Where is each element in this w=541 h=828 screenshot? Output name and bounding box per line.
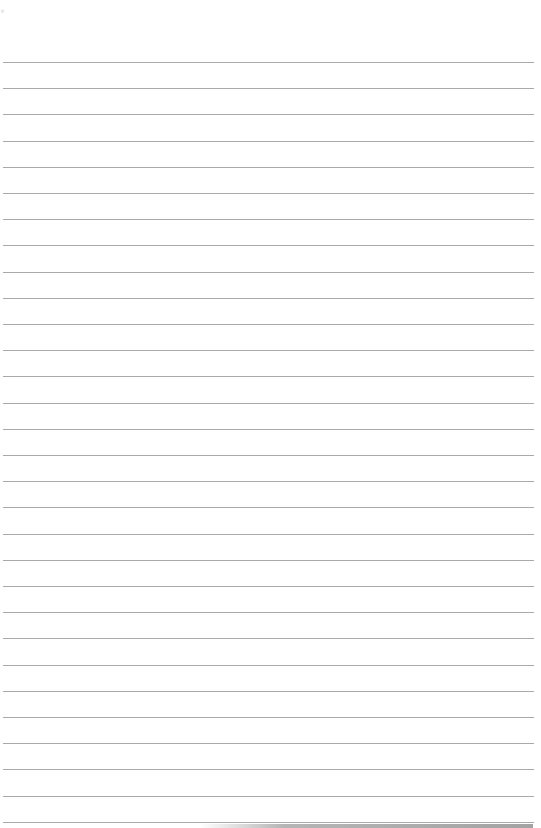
ruled-line xyxy=(3,717,534,718)
ruled-line xyxy=(3,350,534,351)
ruled-line xyxy=(3,743,534,744)
ruled-line xyxy=(3,586,534,587)
ruled-line xyxy=(3,691,534,692)
ruled-line xyxy=(3,560,534,561)
ruled-line xyxy=(3,638,534,639)
ruled-line xyxy=(3,455,534,456)
ruled-line xyxy=(3,62,534,63)
ruled-line xyxy=(3,403,534,404)
ruled-line xyxy=(3,376,534,377)
scan-shadow xyxy=(200,824,533,828)
ruled-line xyxy=(3,324,534,325)
ruled-line xyxy=(3,245,534,246)
ruled-line xyxy=(3,796,534,797)
ruled-line xyxy=(3,272,534,273)
ruled-line xyxy=(3,612,534,613)
ruled-line xyxy=(3,114,534,115)
ruled-line xyxy=(3,298,534,299)
ruled-line xyxy=(3,141,534,142)
ruled-line xyxy=(3,193,534,194)
ruled-line xyxy=(3,219,534,220)
ruled-line xyxy=(3,481,534,482)
ruled-line xyxy=(3,167,534,168)
ruled-line xyxy=(3,429,534,430)
ruled-line xyxy=(3,507,534,508)
ruled-line xyxy=(3,88,534,89)
ruled-line xyxy=(3,822,534,823)
ruled-line xyxy=(3,769,534,770)
ruled-lines xyxy=(0,0,541,828)
ruled-line xyxy=(3,665,534,666)
ruled-line xyxy=(3,534,534,535)
